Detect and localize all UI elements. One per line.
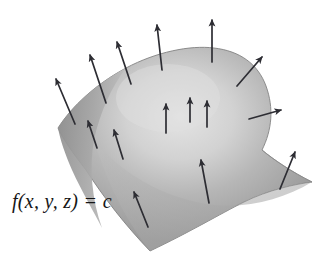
figure-canvas [0, 0, 325, 267]
level-surface [58, 47, 312, 251]
level-surface-equation-label: f(x, y, z) = c [12, 190, 112, 213]
level-surface-figure: f(x, y, z) = c [0, 0, 325, 267]
surface-highlight [116, 64, 220, 132]
